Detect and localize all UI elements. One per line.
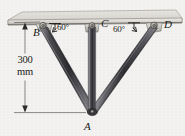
dimension-label: 300 mm: [8, 55, 42, 77]
member-ad: [90, 27, 158, 113]
member-ab: [40, 27, 97, 113]
label-angle-left: 60°: [57, 23, 69, 32]
engineering-figure: B C D A 60° 60° 300 mm: [0, 0, 185, 136]
pin-joint-a: [87, 108, 97, 115]
angle-marker-right: [128, 23, 140, 32]
label-point-d: D: [164, 19, 172, 30]
dimension-value: 300: [17, 54, 32, 65]
label-angle-right: 60°: [113, 25, 125, 34]
pin-joint-b: [40, 22, 47, 29]
member-ac: [88, 27, 95, 113]
pin-joint-c: [89, 23, 95, 29]
pin-joint-d: [151, 22, 158, 29]
label-point-a: A: [84, 121, 91, 132]
label-point-b: B: [33, 27, 40, 38]
dimension-unit: mm: [8, 67, 42, 78]
label-point-c: C: [101, 18, 108, 29]
